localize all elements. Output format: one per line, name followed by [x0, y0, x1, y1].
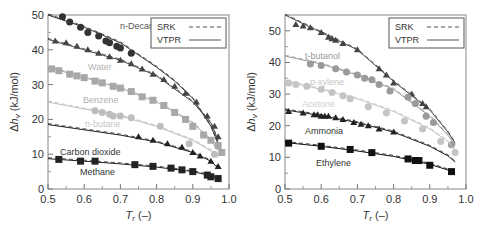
x-tick-label: 0.8: [386, 193, 401, 205]
srk-curve: [285, 80, 455, 150]
data-point: [92, 78, 99, 85]
data-point: [48, 65, 55, 72]
data-point: [386, 87, 393, 94]
x-axis-label: Tr (–): [126, 209, 152, 223]
data-point: [318, 62, 325, 69]
y-tick-label: 0: [38, 183, 44, 195]
x-tick-label: 0.6: [77, 193, 92, 205]
data-point: [448, 168, 455, 175]
x-tick-label: 0.7: [350, 193, 365, 205]
series-label: Benzene: [83, 95, 119, 105]
series-label: t-butanol: [305, 51, 340, 61]
data-point: [354, 72, 361, 79]
left-chart-panel: 0.50.60.70.80.91.001020304050Tr (–)Δhv (…: [8, 9, 237, 223]
data-point: [186, 140, 193, 147]
legend-vtpr-label: VTPR: [395, 35, 420, 45]
data-point: [376, 81, 383, 88]
data-point: [81, 74, 88, 81]
data-point: [401, 117, 408, 124]
data-point: [437, 138, 444, 145]
y-tick-label: 0: [275, 183, 281, 195]
legend: SRKVTPR: [389, 18, 464, 48]
data-point: [423, 113, 430, 120]
data-point: [332, 114, 339, 120]
y-tick-label: 10: [269, 151, 281, 163]
data-point: [84, 29, 91, 36]
x-tick-label: 1.0: [458, 193, 473, 205]
x-tick-label: 1.0: [221, 193, 236, 205]
data-point: [178, 166, 185, 173]
data-point: [128, 114, 135, 121]
data-point: [361, 75, 368, 82]
series-label: Ammonia: [305, 126, 343, 136]
data-point: [307, 61, 314, 68]
data-point: [285, 80, 292, 87]
data-point: [452, 149, 459, 156]
data-point: [211, 151, 218, 158]
data-point: [332, 65, 339, 72]
data-point: [285, 140, 292, 147]
y-tick-label: 20: [32, 113, 44, 125]
data-point: [139, 93, 146, 100]
data-point: [189, 168, 196, 175]
y-axis-label: Δhv (kJ/mol): [8, 72, 22, 132]
data-point: [412, 100, 419, 107]
data-point: [149, 163, 156, 170]
data-point: [73, 43, 80, 49]
data-point: [383, 110, 390, 117]
data-point: [63, 39, 70, 45]
data-point: [415, 157, 422, 164]
data-point: [77, 158, 84, 165]
data-point: [73, 72, 80, 79]
y-tick-label: 20: [269, 120, 281, 132]
data-point: [343, 68, 350, 75]
data-point: [178, 144, 185, 150]
data-point: [117, 45, 124, 52]
data-point: [329, 89, 336, 96]
data-point: [128, 50, 135, 57]
data-point: [182, 116, 189, 123]
y-tick-label: 50: [269, 25, 281, 37]
series-label: Carbon dioxide: [60, 147, 121, 157]
data-point: [99, 79, 106, 86]
data-point: [99, 109, 106, 116]
legend-vtpr-label: VTPR: [157, 35, 182, 45]
x-tick-label: 0.9: [422, 193, 437, 205]
data-point: [426, 162, 433, 169]
legend: SRKVTPR: [151, 18, 226, 48]
right-chart-panel: 0.50.60.70.80.91.001020304050Tr (–)Δhv (…: [245, 14, 474, 223]
data-point: [365, 103, 372, 110]
data-point: [66, 71, 73, 78]
data-point: [347, 95, 354, 102]
x-tick-label: 0.8: [149, 193, 164, 205]
legend-srk-label: SRK: [157, 22, 176, 32]
data-point: [106, 39, 113, 46]
data-point: [207, 173, 214, 180]
data-point: [66, 18, 73, 25]
data-point: [160, 102, 167, 109]
series-label: Methane: [80, 167, 115, 177]
data-point: [368, 76, 375, 83]
series-label: p-xylene: [310, 77, 344, 87]
data-point: [347, 146, 354, 153]
series-label: Ethylene: [316, 158, 351, 168]
data-point: [390, 80, 397, 86]
data-point: [368, 149, 375, 156]
data-point: [92, 107, 99, 114]
data-point: [189, 123, 196, 130]
data-point: [430, 119, 437, 126]
y-tick-label: 10: [32, 148, 44, 160]
data-point: [218, 149, 225, 156]
x-tick-label: 0.6: [314, 193, 329, 205]
data-point: [77, 24, 84, 31]
data-point: [135, 133, 142, 139]
data-point: [59, 13, 66, 20]
data-point: [292, 81, 299, 88]
data-point: [164, 140, 171, 146]
data-point: [149, 137, 156, 143]
data-point: [157, 123, 164, 130]
data-point: [358, 121, 365, 127]
data-point: [128, 88, 135, 95]
data-point: [207, 158, 214, 164]
data-point: [117, 85, 124, 92]
